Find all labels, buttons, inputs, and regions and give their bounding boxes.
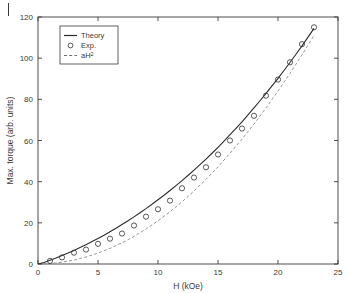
y-axis-tick-label: 40	[24, 178, 33, 187]
x-axis-tick-label: 0	[36, 268, 41, 277]
y-axis-label: Max. torque (arb. units)	[5, 96, 15, 184]
y-axis-tick-label: 60	[24, 137, 33, 146]
y-axis-tick-label: 0	[29, 260, 34, 269]
legend-label-exp: Exp.	[81, 41, 96, 50]
y-axis-tick-label: 20	[24, 219, 33, 228]
legend: TheoryExp.aH2	[60, 26, 118, 64]
y-axis-tick-label: 100	[20, 54, 34, 63]
figure-container: 0510152025020406080100120H (kOe)Max. tor…	[0, 0, 354, 293]
torque-vs-field-chart: 0510152025020406080100120H (kOe)Max. tor…	[0, 0, 354, 293]
x-axis-label: H (kOe)	[173, 281, 203, 291]
y-axis-tick-label: 80	[24, 95, 33, 104]
x-axis-tick-label: 20	[274, 268, 283, 277]
x-axis-tick-label: 15	[214, 268, 223, 277]
page-edge-artifact	[8, 3, 9, 16]
x-axis-tick-label: 25	[334, 268, 343, 277]
legend-label-theory: Theory	[81, 31, 105, 40]
y-axis-tick-label: 120	[20, 13, 34, 22]
x-axis-tick-label: 10	[154, 268, 163, 277]
x-axis-tick-label: 5	[96, 268, 101, 277]
